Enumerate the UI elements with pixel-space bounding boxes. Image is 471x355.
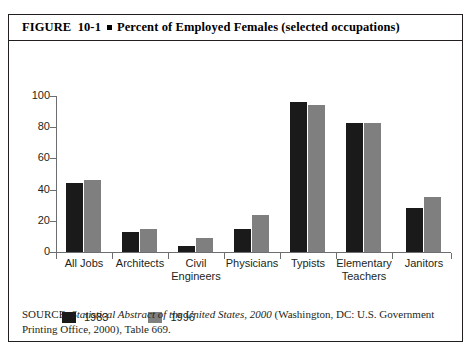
bar-1996-civil-engineers bbox=[196, 238, 213, 252]
bar-group-physicians bbox=[234, 96, 270, 252]
y-tick-label-100: 100 bbox=[20, 89, 50, 101]
bar-group-typists bbox=[290, 96, 326, 252]
bar-1996-elementary-teachers bbox=[364, 123, 381, 252]
y-tick-80 bbox=[50, 127, 57, 128]
figure-title-bar: FIGURE 10-1 Percent of Employed Females … bbox=[9, 15, 462, 41]
bar-1983-civil-engineers bbox=[178, 246, 195, 252]
chart-plot-area: 100 80 60 40 20 0 bbox=[9, 41, 462, 299]
bar-1996-physicians bbox=[252, 215, 269, 252]
bar-1983-all-jobs bbox=[66, 183, 83, 252]
bar-1996-all-jobs bbox=[84, 180, 101, 252]
y-tick-label-40: 40 bbox=[20, 183, 50, 195]
bar-1983-elementary-teachers bbox=[346, 123, 363, 252]
bar-1983-janitors bbox=[406, 208, 423, 252]
bar-1996-janitors bbox=[424, 197, 441, 252]
figure-number: FIGURE 10-1 bbox=[22, 20, 101, 35]
bar-1983-architects bbox=[122, 232, 139, 252]
bar-group-all-jobs bbox=[66, 96, 102, 252]
source-note: SOURCE: Statistical Abstract of the Unit… bbox=[22, 307, 447, 336]
y-tick-label-0: 0 bbox=[20, 245, 50, 257]
y-tick-label-20: 20 bbox=[20, 214, 50, 226]
bar-group-architects bbox=[122, 96, 158, 252]
bar-group-janitors bbox=[406, 96, 442, 252]
y-axis-line bbox=[56, 96, 57, 252]
y-tick-100 bbox=[50, 96, 57, 97]
bar-1983-physicians bbox=[234, 229, 251, 252]
y-tick-20 bbox=[50, 221, 57, 222]
bar-1996-typists bbox=[308, 105, 325, 252]
source-title-italic: Statistical Abstract of the United State… bbox=[71, 308, 272, 320]
x-label-janitors: Janitors bbox=[388, 257, 460, 270]
y-tick-60 bbox=[50, 158, 57, 159]
source-prefix: SOURCE: bbox=[22, 308, 68, 320]
y-tick-label-60: 60 bbox=[20, 151, 50, 163]
bar-1983-typists bbox=[290, 102, 307, 252]
bar-group-elementary-teachers bbox=[346, 96, 382, 252]
bar-1996-architects bbox=[140, 229, 157, 252]
y-tick-40 bbox=[50, 190, 57, 191]
square-bullet-icon bbox=[107, 25, 112, 30]
y-tick-label-80: 80 bbox=[20, 120, 50, 132]
figure-title: Percent of Employed Females (selected oc… bbox=[117, 20, 400, 35]
bar-group-civil-engineers bbox=[178, 96, 214, 252]
figure-container: FIGURE 10-1 Percent of Employed Females … bbox=[8, 14, 463, 342]
